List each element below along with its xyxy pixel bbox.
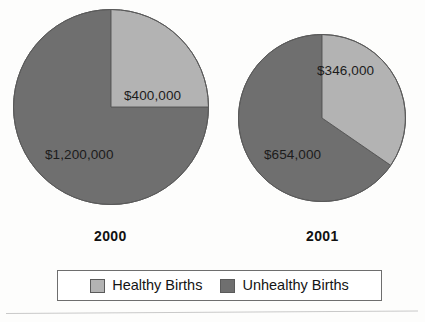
pie-chart-figure: $400,000 $1,200,000 2000 $346,000 $654,0… — [0, 0, 425, 322]
legend-label-unhealthy: Unhealthy Births — [242, 278, 348, 293]
legend-item-healthy[interactable]: Healthy Births — [90, 278, 202, 293]
pie-chart-2001 — [238, 34, 406, 202]
pie-2000-caption: 2000 — [94, 229, 127, 243]
legend-swatch-unhealthy-icon — [220, 279, 235, 293]
chart-legend: Healthy Births Unhealthy Births — [57, 270, 382, 301]
pie-2001-caption: 2001 — [306, 229, 339, 243]
pie-2001-svg — [238, 34, 406, 202]
pie-2000-svg — [13, 9, 209, 205]
legend-item-unhealthy[interactable]: Unhealthy Births — [220, 278, 348, 293]
legend-label-healthy: Healthy Births — [112, 278, 202, 293]
page-divider-rule — [6, 310, 418, 314]
pie-chart-2000 — [13, 9, 209, 205]
pie-2000-healthy-value-label: $400,000 — [124, 89, 181, 103]
pie-2000-unhealthy-value-label: $1,200,000 — [45, 148, 114, 162]
legend-swatch-healthy-icon — [90, 279, 105, 293]
pie-2001-healthy-value-label: $346,000 — [317, 64, 374, 78]
pie-2001-unhealthy-value-label: $654,000 — [264, 148, 321, 162]
